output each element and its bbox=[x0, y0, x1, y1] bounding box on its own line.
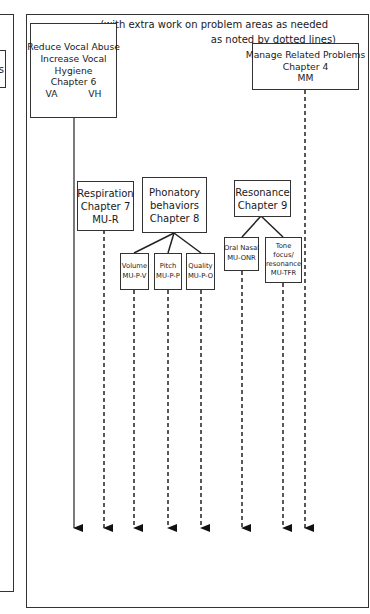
node-phonatory-line-2: behaviors bbox=[150, 199, 199, 212]
node-respiration-line-1: Respiration bbox=[77, 187, 133, 200]
node-respiration-line-2: Chapter 7 bbox=[81, 200, 131, 213]
node-reduce-vocal-abuse: Reduce Vocal Abuse Increase Vocal Hygien… bbox=[30, 23, 117, 118]
branch-line-tone-focus bbox=[261, 216, 283, 237]
node-reduce-line-3: Hygiene bbox=[55, 65, 93, 77]
node-oral-nasal-line-2: MU-ONR bbox=[227, 254, 256, 264]
node-volume-line-1: Volume bbox=[122, 262, 147, 272]
node-oral-nasal: Oral Nasal MU-ONR bbox=[224, 237, 259, 271]
node-phonatory-line-1: Phonatory bbox=[149, 186, 200, 199]
node-tone-line-4: MU-TFR bbox=[271, 269, 296, 278]
node-pitch-line-1: Pitch bbox=[160, 262, 177, 272]
node-manage-line-1: Manage Related Problems bbox=[246, 49, 366, 61]
node-resonance-line-1: Resonance bbox=[235, 186, 289, 199]
node-reduce-line-4: Chapter 6 bbox=[51, 76, 97, 88]
node-tone-line-2: focus/ bbox=[273, 251, 293, 260]
node-reduce-codes: VA VH bbox=[46, 88, 102, 100]
node-reduce-line-2: Increase Vocal bbox=[40, 53, 106, 65]
node-resonance: Resonance Chapter 9 bbox=[234, 180, 291, 217]
node-manage-line-3: MM bbox=[298, 72, 314, 84]
node-phonatory-line-3: Chapter 8 bbox=[150, 212, 200, 225]
node-oral-nasal-line-1: Oral Nasal bbox=[224, 244, 259, 254]
node-reduce-code-vh: VH bbox=[88, 88, 101, 100]
node-quality-line-2: MU-P-O bbox=[188, 272, 213, 282]
node-manage-related-problems: Manage Related Problems Chapter 4 MM bbox=[252, 43, 359, 90]
node-reduce-line-1: Reduce Vocal Abuse bbox=[27, 41, 120, 53]
branch-line-oral-nasal bbox=[242, 216, 261, 237]
branch-line-volume bbox=[134, 233, 174, 253]
node-pitch-line-2: MU-P-P bbox=[156, 272, 180, 282]
node-reduce-code-va: VA bbox=[46, 88, 58, 100]
node-tone-line-1: Tone bbox=[276, 242, 292, 251]
node-resonance-line-2: Chapter 9 bbox=[238, 199, 288, 212]
node-volume-line-2: MU-P-V bbox=[123, 272, 147, 282]
node-quality: Quality MU-P-O bbox=[186, 253, 215, 290]
node-tone-line-3: resonance bbox=[266, 260, 301, 269]
node-respiration: Respiration Chapter 7 MU-R bbox=[77, 181, 134, 231]
node-manage-line-2: Chapter 4 bbox=[283, 61, 329, 73]
node-phonatory-behaviors: Phonatory behaviors Chapter 8 bbox=[142, 177, 207, 233]
node-quality-line-1: Quality bbox=[188, 262, 212, 272]
node-pitch: Pitch MU-P-P bbox=[154, 253, 182, 290]
branch-line-quality bbox=[174, 233, 201, 253]
node-tone-focus-resonance: Tone focus/ resonance MU-TFR bbox=[265, 237, 302, 283]
node-volume: Volume MU-P-V bbox=[120, 253, 149, 290]
node-respiration-line-3: MU-R bbox=[92, 213, 119, 226]
